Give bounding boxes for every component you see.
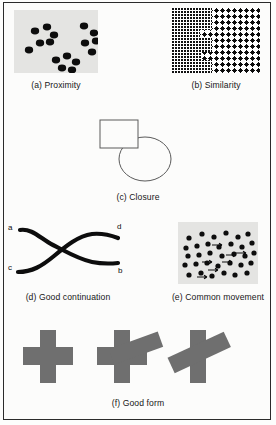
- panel-closure: [92, 112, 184, 190]
- panel-good-continuation: a d c b: [8, 222, 128, 284]
- caption-good-form: (f) Good form: [76, 398, 200, 408]
- panel-similarity: [172, 8, 260, 73]
- proximity-dots: [14, 10, 98, 73]
- gestalt-principles-figure: (a) Proximity (b) Similarity: [0, 0, 276, 425]
- common-movement-dots: [178, 222, 258, 284]
- continuation-label-b: b: [118, 266, 122, 275]
- continuation-label-a: a: [8, 223, 12, 232]
- continuation-curves: [8, 222, 128, 284]
- panel-proximity: [14, 10, 98, 73]
- caption-similarity: (b) Similarity: [170, 80, 262, 90]
- plain-cross: [23, 330, 73, 383]
- caption-common-movement: (e) Common movement: [160, 292, 276, 302]
- caption-good-continuation: (d) Good continuation: [4, 292, 132, 302]
- caption-closure: (c) Closure: [92, 192, 184, 202]
- continuation-label-d: d: [117, 222, 121, 231]
- caption-proximity: (a) Proximity: [14, 80, 98, 90]
- bar-with-steep-tilted-bar: [168, 330, 231, 383]
- closure-shapes: [92, 112, 184, 190]
- continuation-label-c: c: [8, 263, 12, 272]
- similarity-textures: [172, 8, 260, 73]
- panel-good-form: [18, 328, 258, 390]
- cross-with-tilted-bar: [97, 330, 163, 383]
- good-form-shapes: [18, 328, 258, 390]
- panel-common-movement: [178, 222, 258, 284]
